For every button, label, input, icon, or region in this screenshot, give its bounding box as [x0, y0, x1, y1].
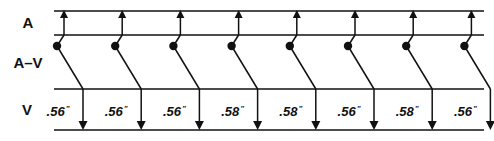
row-label-ventricular: V — [22, 101, 32, 118]
interval-value: .58 — [396, 104, 414, 119]
interval-value: .58 — [279, 104, 297, 119]
row-label-atrial: A — [23, 14, 34, 31]
arrow-down-icon — [253, 121, 262, 130]
rr-interval-label: .56" — [105, 104, 128, 119]
arrow-down-icon — [195, 121, 204, 130]
interval-unit: " — [415, 104, 419, 113]
interval-value: .58 — [221, 104, 239, 119]
rr-interval-label: .56" — [47, 104, 70, 119]
junction-origin-dot — [460, 42, 468, 50]
ladder-diagram — [0, 0, 494, 141]
interval-unit: " — [240, 104, 244, 113]
interval-value: .56 — [47, 104, 65, 119]
rr-interval-label: .56" — [454, 104, 477, 119]
rr-interval-label: .58" — [396, 104, 419, 119]
rr-interval-label: .58" — [279, 104, 302, 119]
row-label-av-junction: A–V — [13, 54, 42, 71]
interval-value: .56 — [163, 104, 181, 119]
interval-unit: " — [124, 104, 128, 113]
interval-value: .56 — [454, 104, 472, 119]
interval-value: .56 — [338, 104, 356, 119]
arrow-down-icon — [79, 121, 88, 130]
interval-unit: " — [473, 104, 477, 113]
rr-interval-label: .56" — [163, 104, 186, 119]
arrow-down-icon — [311, 121, 320, 130]
arrow-down-icon — [137, 121, 146, 130]
interval-unit: " — [298, 104, 302, 113]
rr-interval-label: .58" — [221, 104, 244, 119]
arrow-down-icon — [370, 121, 379, 130]
interval-unit: " — [182, 104, 186, 113]
interval-unit: " — [357, 104, 361, 113]
arrow-down-icon — [486, 121, 494, 130]
arrow-down-icon — [428, 121, 437, 130]
interval-unit: " — [66, 104, 70, 113]
rr-interval-label: .56" — [338, 104, 361, 119]
interval-value: .56 — [105, 104, 123, 119]
